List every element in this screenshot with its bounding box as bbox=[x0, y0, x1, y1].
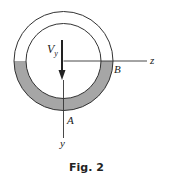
z-axis-label: z bbox=[149, 54, 155, 66]
point-b-label: B bbox=[114, 63, 121, 75]
cross-section-diagram: Vy z B A y Fig. 2 bbox=[0, 0, 171, 179]
shear-force-arrowhead-icon bbox=[59, 70, 66, 80]
point-a-label: A bbox=[66, 114, 74, 126]
shear-force-label: Vy bbox=[47, 42, 58, 58]
figure-caption: Fig. 2 bbox=[69, 161, 104, 174]
y-axis-label: y bbox=[59, 137, 65, 149]
